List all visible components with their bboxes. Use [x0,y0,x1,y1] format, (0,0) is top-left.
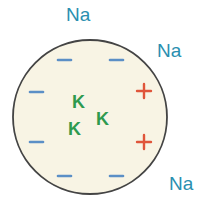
cell-membrane [13,40,167,194]
sodium-ion-label: Na [169,174,193,193]
potassium-ion-label: K [72,93,85,111]
cell-diagram [0,0,209,200]
potassium-ion-label: K [96,110,109,128]
sodium-ion-label: Na [66,5,90,24]
potassium-ion-label: K [68,120,81,138]
sodium-ion-label: Na [157,41,181,60]
